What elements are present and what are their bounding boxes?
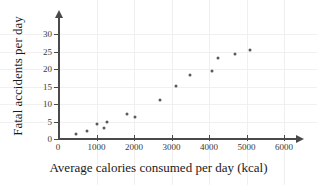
x-axis-tick-label: 4000 xyxy=(200,143,218,152)
plot-area xyxy=(59,17,304,139)
data-point xyxy=(74,133,77,136)
y-axis-tick-label: 30 xyxy=(43,30,52,39)
data-point xyxy=(106,120,109,123)
scatter-chart: 051015202530 0100020003000400050006000 F… xyxy=(0,0,317,185)
data-point xyxy=(248,49,251,52)
data-point xyxy=(103,127,106,130)
y-axis-tick-label: 5 xyxy=(48,118,53,127)
data-point xyxy=(234,53,237,56)
x-axis-tick-label: 1000 xyxy=(88,143,106,152)
data-point xyxy=(126,113,129,116)
data-point xyxy=(217,56,220,59)
x-axis-tick-label: 3000 xyxy=(163,143,181,152)
data-point xyxy=(86,130,89,133)
data-point xyxy=(189,74,192,77)
y-axis-tick-label: 25 xyxy=(43,48,52,57)
data-point xyxy=(211,70,214,73)
x-axis-tick-label: 5000 xyxy=(238,143,256,152)
data-point xyxy=(175,85,178,88)
y-axis-tick-label: 20 xyxy=(43,65,52,74)
data-point xyxy=(95,123,98,126)
x-axis-tick-label: 2000 xyxy=(125,143,143,152)
data-point xyxy=(133,116,136,119)
x-axis-tick-label: 6000 xyxy=(275,143,293,152)
y-axis-tick xyxy=(54,139,60,140)
data-point xyxy=(159,98,162,101)
x-axis-tick-label: 0 xyxy=(56,143,61,152)
y-axis-tick-label: 15 xyxy=(43,83,52,92)
y-axis-tick-label: 0 xyxy=(48,135,53,144)
y-axis-label: Fatal accidents per day xyxy=(10,11,26,141)
y-axis-tick-label: 10 xyxy=(43,100,52,109)
x-axis-label: Average calories consumed per day (kcal) xyxy=(0,160,317,176)
